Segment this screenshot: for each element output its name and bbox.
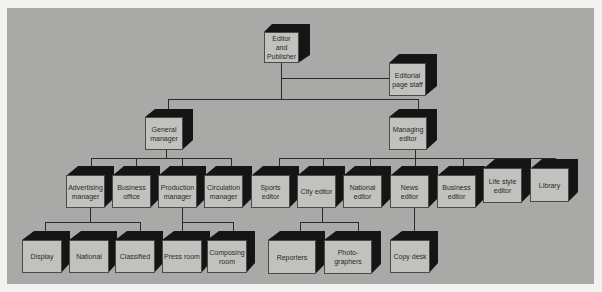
connector-line (281, 78, 389, 79)
node-label: Reporters (268, 240, 316, 274)
node-business-office: Business office (112, 166, 160, 208)
node-news-editor: News editor (390, 166, 438, 208)
node-label: Managing editor (389, 117, 427, 150)
node-label: Editor and Publisher (264, 32, 299, 63)
connector-line (182, 208, 183, 232)
node-production-manager: Production manager (158, 166, 206, 208)
node-editorial-page-staff: Editorial page staff (389, 54, 437, 96)
node-managing-editor: Managing editor (389, 109, 437, 150)
node-label: Production manager (158, 175, 197, 208)
node-label: National editor (343, 175, 382, 208)
connector-line (91, 158, 232, 159)
node-label: Photo-graphers (324, 240, 372, 274)
node-label: Press room (162, 240, 202, 273)
node-label: Library (530, 168, 569, 202)
node-library: Library (530, 159, 578, 202)
node-composing-room: Composing room (207, 231, 255, 273)
node-label: Advertising manager (66, 175, 105, 208)
node-life-style-editor: Life style editor (483, 159, 531, 203)
node-label: Circulation manager (204, 175, 243, 208)
connector-line (168, 99, 419, 100)
node-label: Classified (115, 240, 155, 273)
connector-line (45, 222, 141, 223)
node-label: Life style editor (483, 168, 522, 203)
node-label: Composing room (207, 240, 247, 273)
node-national-editor: National editor (343, 166, 391, 208)
connector-line (90, 208, 91, 223)
node-label: Sports editor (251, 175, 290, 208)
node-reporters: Reporters (268, 231, 325, 274)
node-label: Editorial page staff (389, 63, 426, 96)
node-advertising-manager: Advertising manager (66, 166, 114, 208)
connector-line (414, 208, 415, 232)
node-business-editor: Business editor (437, 166, 485, 208)
node-circulation-manager: Circulation manager (204, 166, 252, 208)
node-label: General manager (145, 117, 183, 150)
node-photographers: Photo-graphers (324, 231, 381, 274)
connector-line (300, 222, 359, 223)
connector-line (322, 208, 323, 223)
connector-line (281, 63, 282, 100)
node-copy-desk: Copy desk (390, 231, 438, 273)
connector-line (182, 222, 234, 223)
node-classified: Classified (115, 231, 163, 273)
node-editor-publisher: Editor and Publisher (264, 24, 310, 63)
node-label: Business office (112, 175, 151, 208)
node-label: Display (22, 240, 62, 273)
node-general-manager: General manager (145, 109, 193, 150)
node-label: News editor (390, 175, 429, 208)
node-label: City editor (297, 175, 336, 208)
node-label: Copy desk (390, 240, 430, 273)
node-display: Display (22, 231, 70, 273)
node-label: Business editor (437, 175, 476, 208)
node-press-room: Press room (162, 231, 210, 273)
node-label: National (69, 240, 109, 273)
node-sports-editor: Sports editor (251, 166, 299, 208)
node-city-editor: City editor (297, 166, 345, 208)
node-national: National (69, 231, 117, 273)
